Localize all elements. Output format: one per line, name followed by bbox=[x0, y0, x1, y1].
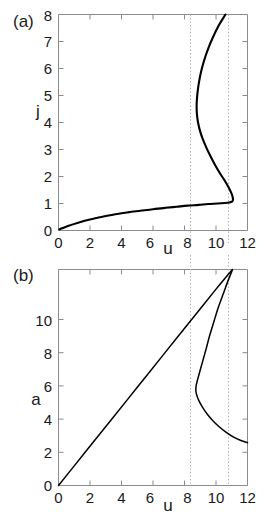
panel-b-ylabel: a bbox=[31, 390, 41, 409]
panel-b-xtick-2: 2 bbox=[86, 489, 94, 506]
panel-a-xtick-4: 4 bbox=[117, 234, 125, 251]
panel-a-xtick-2: 2 bbox=[86, 234, 94, 251]
panel-a-ytick-1: 1 bbox=[44, 195, 52, 212]
panel-a-axis-box bbox=[59, 15, 248, 231]
panel-b-curve-upper bbox=[59, 270, 233, 486]
panel-a-xtick-8: 8 bbox=[183, 234, 191, 251]
panel-a-label: (a) bbox=[13, 12, 34, 31]
panel-b-x-ticks bbox=[59, 481, 248, 486]
panel-a-ytick-2: 2 bbox=[44, 168, 52, 185]
panel-b: (b) 0 bbox=[13, 255, 256, 515]
panel-b-xtick-12: 12 bbox=[239, 489, 256, 506]
panel-a-ytick-8: 8 bbox=[44, 7, 52, 24]
panel-a-xtick-6: 6 bbox=[146, 234, 154, 251]
panel-a-xtick-12: 12 bbox=[239, 234, 256, 251]
panel-a-xtick-0: 0 bbox=[54, 234, 62, 251]
panel-b-xtick-8: 8 bbox=[183, 489, 191, 506]
figure-svg: (a) bbox=[0, 0, 265, 523]
panel-b-ytick-2: 2 bbox=[44, 444, 52, 461]
panel-a-ytick-5: 5 bbox=[44, 87, 52, 104]
figure-container: (a) bbox=[0, 0, 265, 523]
panel-b-ytick-10: 10 bbox=[35, 312, 52, 329]
panel-b-y-ticks bbox=[59, 320, 64, 486]
panel-b-x-ticks-top bbox=[90, 270, 216, 275]
panel-a-ytick-4: 4 bbox=[44, 114, 52, 131]
panel-b-xtick-0: 0 bbox=[54, 489, 62, 506]
panel-a-y-ticks-right bbox=[243, 42, 248, 204]
panel-b-curve-lower bbox=[196, 270, 248, 443]
panel-a-axis-lines bbox=[59, 15, 248, 231]
panel-b-axis-lines bbox=[59, 270, 248, 486]
panel-a-y-ticks bbox=[59, 15, 64, 231]
panel-b-ytick-8: 8 bbox=[44, 345, 52, 362]
panel-b-xtick-4: 4 bbox=[117, 489, 125, 506]
panel-b-ytick-6: 6 bbox=[44, 378, 52, 395]
panel-b-xtick-6: 6 bbox=[146, 489, 154, 506]
panel-a-curve bbox=[59, 15, 233, 230]
panel-a-xlabel: u bbox=[163, 239, 172, 258]
panel-b-label: (b) bbox=[13, 266, 34, 285]
panel-b-ytick-0: 0 bbox=[44, 477, 52, 494]
panel-b-ytick-4: 4 bbox=[44, 411, 52, 428]
panel-a-x-ticks bbox=[59, 226, 248, 231]
panel-b-y-ticks-right bbox=[243, 320, 248, 453]
panel-b-xlabel: u bbox=[163, 496, 172, 515]
panel-a-x-ticks-top bbox=[90, 15, 216, 20]
panel-a-ytick-6: 6 bbox=[44, 60, 52, 77]
panel-a-xtick-10: 10 bbox=[208, 234, 225, 251]
panel-b-axis-box bbox=[59, 270, 248, 486]
panel-a-ytick-7: 7 bbox=[44, 33, 52, 50]
panel-a: (a) bbox=[13, 7, 256, 258]
panel-a-ylabel: j bbox=[35, 102, 40, 121]
panel-a-ytick-3: 3 bbox=[44, 141, 52, 158]
panel-a-ytick-0: 0 bbox=[44, 222, 52, 239]
panel-b-xtick-10: 10 bbox=[208, 489, 225, 506]
